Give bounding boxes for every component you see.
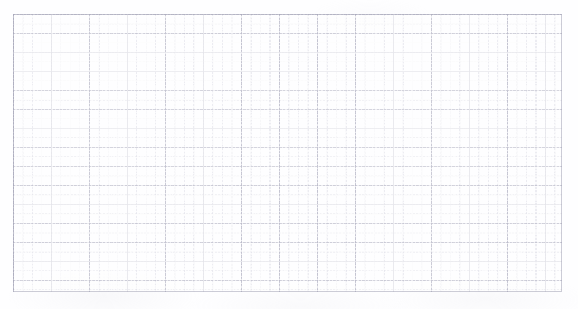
grid-area — [13, 14, 562, 292]
graph-paper-page — [0, 0, 578, 309]
grid-outer-frame — [13, 14, 562, 292]
